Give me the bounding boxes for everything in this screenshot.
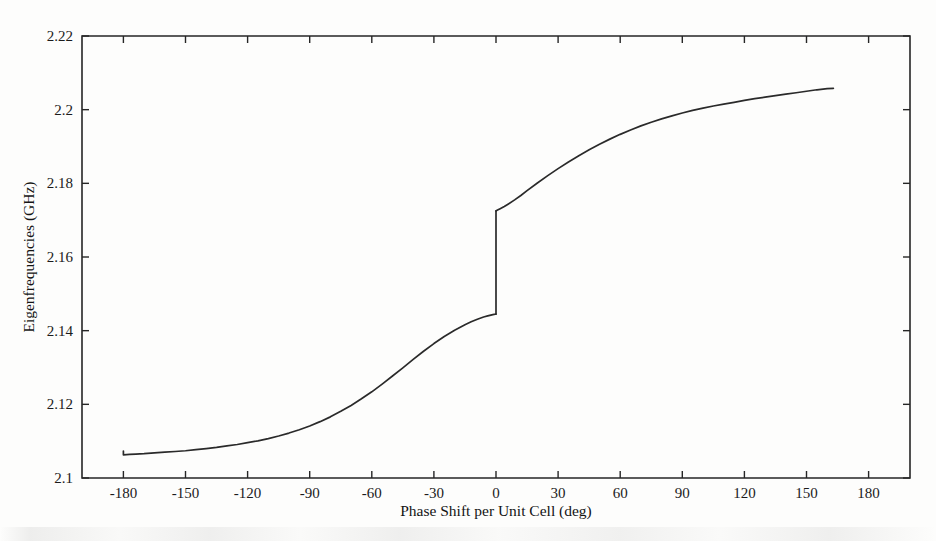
x-tick-label: -90 xyxy=(300,485,320,501)
x-tick-label: -120 xyxy=(234,485,262,501)
y-tick-label: 2.14 xyxy=(47,323,74,339)
dispersion-plot: -180-150-120-90-60-3003060901201501802.1… xyxy=(0,0,936,541)
data-series-group xyxy=(123,88,833,455)
x-axis-title: Phase Shift per Unit Cell (deg) xyxy=(400,502,592,520)
y-axis-title: Eigenfrequencies (GHz) xyxy=(20,181,38,332)
y-tick-label: 2.1 xyxy=(54,470,73,486)
y-tick-label: 2.2 xyxy=(54,102,73,118)
x-tick-label: 60 xyxy=(613,485,628,501)
x-tick-label: 30 xyxy=(551,485,566,501)
x-tick-label: 150 xyxy=(795,485,818,501)
x-tick-label: 180 xyxy=(857,485,880,501)
y-tick-label: 2.16 xyxy=(47,249,74,265)
data-curve-branch-upper xyxy=(496,88,833,211)
x-tick-label: -30 xyxy=(424,485,444,501)
x-tick-label: -180 xyxy=(110,485,138,501)
data-curve-branch-lower xyxy=(123,314,496,455)
x-tick-label: -60 xyxy=(362,485,382,501)
figure-container: -180-150-120-90-60-3003060901201501802.1… xyxy=(0,0,936,541)
y-tick-label: 2.12 xyxy=(47,396,73,412)
x-tick-label: 90 xyxy=(675,485,690,501)
x-tick-label: -150 xyxy=(172,485,200,501)
y-tick-label: 2.22 xyxy=(47,28,73,44)
y-tick-label: 2.18 xyxy=(47,175,73,191)
x-tick-label: 120 xyxy=(733,485,756,501)
x-tick-label: 0 xyxy=(492,485,500,501)
